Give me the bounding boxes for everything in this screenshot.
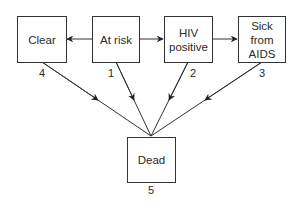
state-at-risk: At risk xyxy=(92,16,140,63)
state-number-sick: 3 xyxy=(254,67,270,79)
state-number-hiv: 2 xyxy=(185,67,201,79)
state-number-at-risk: 1 xyxy=(103,67,119,79)
state-dead: Dead xyxy=(127,137,176,183)
state-hiv-positive: HIV positive xyxy=(164,16,213,63)
state-label-sick-1: Sick xyxy=(251,19,273,33)
state-clear: Clear xyxy=(17,16,67,63)
state-label-at-risk: At risk xyxy=(100,33,132,47)
state-label-clear: Clear xyxy=(28,33,55,47)
state-sick-from-aids: Sick from AIDS xyxy=(238,16,286,63)
state-number-clear: 4 xyxy=(34,67,50,79)
state-label-sick-2: from xyxy=(251,33,274,47)
state-label-hiv-1: HIV xyxy=(179,26,198,40)
state-label-hiv-2: positive xyxy=(169,40,208,54)
state-label-dead: Dead xyxy=(138,153,166,167)
state-number-dead: 5 xyxy=(143,184,159,196)
state-label-sick-3: AIDS xyxy=(249,47,276,61)
